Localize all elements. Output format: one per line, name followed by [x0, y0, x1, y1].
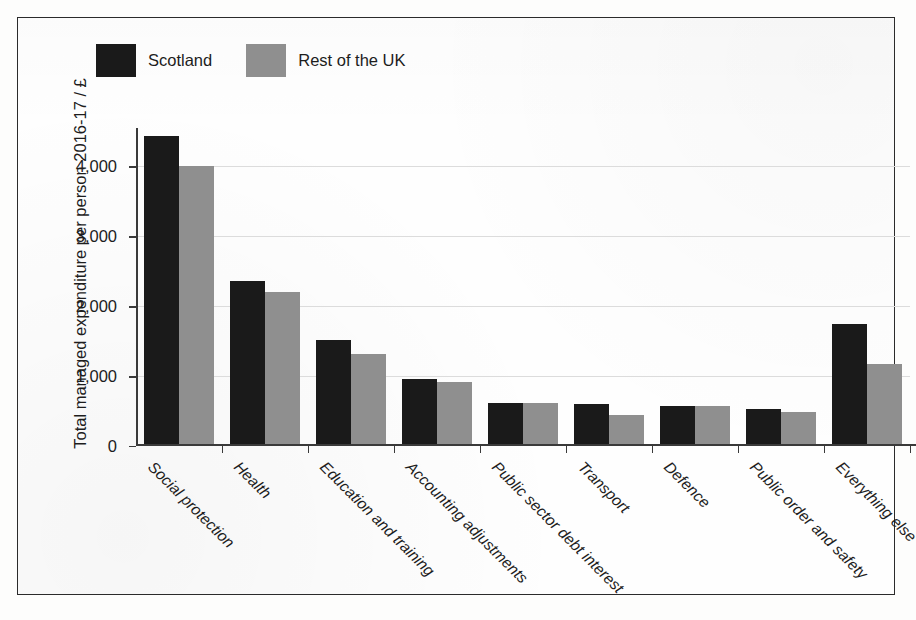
bar-rest-of-the-uk-transport — [609, 415, 644, 446]
x-axis-tick — [480, 446, 481, 453]
y-axis-tick-label: 3,000 — [76, 227, 117, 246]
x-axis-label-everything-else: Everything else — [832, 458, 916, 546]
x-axis-tick — [824, 446, 825, 453]
y-axis-tick-label: 4,000 — [76, 157, 117, 176]
bar-rest-of-the-uk-social-protection — [179, 166, 214, 446]
y-axis-tick: 1,000 — [129, 376, 136, 377]
legend-label-rest-of-uk: Rest of the UK — [298, 51, 405, 70]
x-axis-label-defence: Defence — [660, 458, 714, 512]
legend-swatch-rest-of-uk — [246, 44, 286, 77]
y-axis-tick-label: 2,000 — [76, 297, 117, 316]
x-axis-tick — [652, 446, 653, 453]
y-axis-tick: 4,000 — [129, 166, 136, 167]
y-axis-tick-label: 1,000 — [76, 367, 117, 386]
x-axis-line — [136, 444, 916, 446]
y-axis-tick: 2,000 — [129, 306, 136, 307]
bar-scotland-social-protection — [144, 136, 179, 446]
legend-entry-rest-of-uk: Rest of the UK — [246, 44, 405, 77]
legend-entry-scotland: Scotland — [96, 44, 212, 77]
figure-border-frame: Scotland Rest of the UK Total managed ex… — [17, 17, 895, 595]
bar-rest-of-the-uk-everything-else — [867, 364, 902, 446]
bar-scotland-education-and-training — [316, 340, 351, 446]
bar-rest-of-the-uk-public-order-and-safety — [781, 412, 816, 446]
x-axis-label-health: Health — [230, 458, 274, 502]
x-axis-tick — [222, 446, 223, 453]
y-axis-tick: 0 — [129, 446, 136, 447]
bar-scotland-defence — [660, 406, 695, 446]
bar-rest-of-the-uk-public-sector-debt-interest — [523, 403, 558, 446]
x-axis-tick — [910, 446, 911, 453]
x-axis-category-labels: Social protectionHealthEducation and tra… — [136, 458, 910, 618]
bar-scotland-public-order-and-safety — [746, 409, 781, 446]
bar-scotland-transport — [574, 404, 609, 446]
legend-label-scotland: Scotland — [148, 51, 212, 70]
chart-legend: Scotland Rest of the UK — [96, 44, 406, 77]
x-axis-tick — [566, 446, 567, 453]
y-axis-tick-label: 0 — [108, 437, 117, 456]
figure-container: Scotland Rest of the UK Total managed ex… — [0, 0, 916, 620]
x-axis-tick — [738, 446, 739, 453]
gridline — [136, 236, 910, 237]
legend-swatch-scotland — [96, 44, 136, 77]
bar-scotland-everything-else — [832, 324, 867, 446]
y-axis-line — [136, 128, 138, 446]
bar-scotland-public-sector-debt-interest — [488, 403, 523, 446]
bar-rest-of-the-uk-education-and-training — [351, 354, 386, 446]
plot-inner: 01,0002,0003,0004,000 — [136, 128, 910, 446]
x-axis-tick — [394, 446, 395, 453]
x-axis-label-social-protection: Social protection — [144, 458, 238, 552]
plot-area: 01,0002,0003,0004,000 — [136, 128, 910, 446]
bar-rest-of-the-uk-health — [265, 292, 300, 446]
bar-scotland-health — [230, 281, 265, 446]
bar-rest-of-the-uk-accounting-adjustments — [437, 382, 472, 446]
x-axis-label-transport: Transport — [574, 458, 633, 517]
bar-scotland-accounting-adjustments — [402, 379, 437, 446]
y-axis-title: Total managed expenditure per person 201… — [71, 54, 90, 474]
bar-rest-of-the-uk-defence — [695, 406, 730, 446]
gridline — [136, 166, 910, 167]
y-axis-tick: 3,000 — [129, 236, 136, 237]
x-axis-tick — [308, 446, 309, 453]
